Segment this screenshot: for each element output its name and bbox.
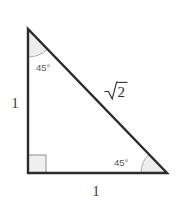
label-hypotenuse: 2 xyxy=(105,82,128,100)
label-leg-vertical: 1 xyxy=(11,95,19,111)
label-leg-horizontal: 1 xyxy=(92,183,100,199)
label-angle-top: 45° xyxy=(36,62,51,73)
triangle-outline xyxy=(28,29,167,173)
geometry-figure: 1 1 2 45° 45° xyxy=(0,0,178,204)
label-hypotenuse-radicand: 2 xyxy=(118,84,126,100)
radical-sign-icon xyxy=(105,82,117,99)
label-angle-bottom-right: 45° xyxy=(114,157,129,168)
right-angle-marker-icon xyxy=(28,155,46,173)
triangle-diagram: 1 1 2 45° 45° xyxy=(0,0,178,204)
